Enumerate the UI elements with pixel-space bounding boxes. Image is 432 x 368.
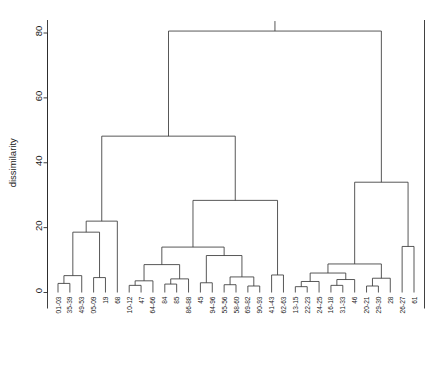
- dendrogram-plot: 020406080 01-0335-3949-5305-09196810-124…: [0, 0, 432, 368]
- dendrogram-link: [94, 278, 106, 293]
- dendrogram-link: [328, 264, 381, 278]
- leaf-label: 90-93: [256, 296, 263, 313]
- dendrogram-link: [58, 283, 70, 292]
- leaf-labels: 01-0335-3949-5305-09196810-124764-668485…: [55, 296, 418, 313]
- y-tick-label: 20: [33, 220, 44, 231]
- leaf-label: 13-15: [292, 296, 299, 313]
- dendrogram-link: [355, 182, 408, 264]
- page-bleed-bottom-text: [4, 360, 164, 368]
- page-bleed-top-text: [4, 0, 124, 7]
- leaf-label: 31-33: [339, 296, 346, 313]
- leaf-label: 68: [114, 296, 121, 304]
- leaf-label: 58-60: [233, 296, 240, 313]
- leaf-label: 28: [387, 296, 394, 304]
- y-tick-label: 60: [33, 91, 44, 102]
- dendrogram-link: [129, 285, 141, 292]
- plot-border: [48, 20, 425, 309]
- dendrogram-link: [402, 246, 414, 292]
- leaf-label: 85: [173, 296, 180, 304]
- dendrogram-link: [144, 265, 180, 281]
- leaf-label: 01-03: [55, 296, 62, 313]
- leaf-label: 41-43: [268, 296, 275, 313]
- leaf-label: 49-53: [78, 296, 85, 313]
- dendrogram-link: [206, 256, 242, 283]
- y-tick-label: 0: [33, 288, 44, 293]
- dendrogram-link: [367, 286, 379, 292]
- dendrogram-link: [224, 285, 236, 293]
- leaf-label: 86-88: [185, 296, 192, 313]
- dendrogram-link: [272, 275, 284, 293]
- leaf-label: 47: [138, 296, 145, 304]
- leaf-label: 94-96: [209, 296, 216, 313]
- dendrogram-link: [193, 200, 278, 275]
- dendrogram-link: [135, 281, 153, 293]
- dendrogram-link: [331, 285, 343, 292]
- dendrogram-link: [310, 273, 346, 281]
- leaf-label: 20-21: [363, 296, 370, 313]
- y-axis-title: dissimilarity: [7, 138, 18, 187]
- dendrogram-link: [171, 279, 189, 293]
- leaf-label: 64-66: [149, 296, 156, 313]
- leaf-label: 05-09: [90, 296, 97, 313]
- leaf-label: 35-39: [66, 296, 73, 313]
- dendrogram-link: [337, 280, 355, 293]
- leaf-label: 22-23: [304, 296, 311, 313]
- leaf-label: 26-27: [399, 296, 406, 313]
- dendrogram-link: [372, 278, 390, 292]
- leaf-label: 24-25: [316, 296, 323, 313]
- leaf-label: 55-56: [221, 296, 228, 313]
- y-axis: 020406080: [33, 26, 48, 293]
- dendrogram-link: [64, 276, 82, 293]
- leaf-label: 46: [351, 296, 358, 304]
- plot-frame: [48, 20, 425, 309]
- leaf-label: 10-12: [126, 296, 133, 313]
- dendrogram-link: [165, 284, 177, 292]
- dendrogram-link: [200, 283, 212, 293]
- leaf-label: 61: [411, 296, 418, 304]
- dendrogram-figure: 020406080 01-0335-3949-5305-09196810-124…: [0, 0, 432, 368]
- dendrogram-links: [58, 21, 414, 292]
- leaf-label: 62-63: [280, 296, 287, 313]
- dendrogram-link: [73, 232, 100, 277]
- leaf-label: 29-30: [375, 296, 382, 313]
- y-axis-title-text: dissimilarity: [7, 138, 18, 187]
- leaf-label: 84: [161, 296, 168, 304]
- dendrogram-link: [295, 287, 307, 293]
- dendrogram-link: [248, 286, 260, 292]
- y-tick-label: 40: [33, 155, 44, 166]
- dendrogram-link: [102, 136, 236, 221]
- leaf-label: 16-18: [327, 296, 334, 313]
- leaf-label: 69-82: [244, 296, 251, 313]
- leaf-label: 45: [197, 296, 204, 304]
- leaf-label: 19: [102, 296, 109, 304]
- dendrogram-link: [169, 31, 382, 182]
- y-tick-label: 80: [33, 26, 44, 37]
